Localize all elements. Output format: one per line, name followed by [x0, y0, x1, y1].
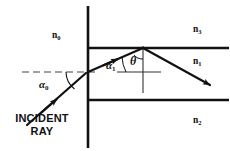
medium-label-n0-subscript: 0 — [57, 34, 60, 41]
medium-label-n1: n1 — [193, 57, 202, 67]
angle-label-alpha0-subscript: 0 — [45, 84, 49, 92]
medium-label-n2: n2 — [193, 116, 202, 126]
medium-label-n2-subscript: 2 — [198, 119, 201, 126]
incident-ray-caption-line2: RAY — [4, 125, 80, 138]
angle-label-alpha0: α0 — [39, 79, 49, 90]
angle-label-theta: θ — [130, 55, 136, 67]
medium-label-n0: n0 — [52, 31, 61, 41]
optics-diagram: n0 n3 n1 n2 α0 α1 θ INCIDENT RAY — [0, 0, 230, 151]
angle-label-alpha1: α1 — [106, 60, 116, 71]
incident-ray-caption: INCIDENT RAY — [4, 112, 80, 138]
medium-label-n3: n3 — [193, 25, 202, 35]
medium-label-n1-subscript: 1 — [198, 60, 201, 67]
alpha1-angle-arc — [122, 57, 126, 72]
incident-ray-arrow — [41, 99, 57, 113]
medium-label-n3-subscript: 3 — [198, 28, 201, 35]
angle-label-alpha1-subscript: 1 — [112, 65, 116, 73]
incident-ray-caption-line1: INCIDENT — [4, 112, 80, 125]
